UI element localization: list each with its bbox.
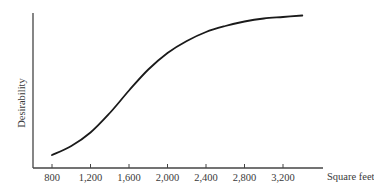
desirability-curve (52, 16, 302, 156)
x-tick-label: 1,600 (117, 172, 141, 183)
x-tick-label: 1,200 (79, 172, 103, 183)
x-tick-label: 2,800 (233, 172, 257, 183)
x-axis-label: Square feet (327, 171, 374, 182)
x-tick-label: 2,400 (194, 172, 218, 183)
y-axis-label: Desirability (16, 77, 27, 127)
x-tick-label: 2,000 (156, 172, 180, 183)
x-tick-label: 800 (44, 172, 60, 183)
x-tick-label: 3,200 (271, 172, 295, 183)
plot-area: 8001,2001,6002,0002,4002,8003,200 Square… (16, 13, 374, 183)
x-tick-labels: 8001,2001,6002,0002,4002,8003,200 (44, 172, 295, 183)
desirability-chart: 8001,2001,6002,0002,4002,8003,200 Square… (0, 0, 374, 192)
